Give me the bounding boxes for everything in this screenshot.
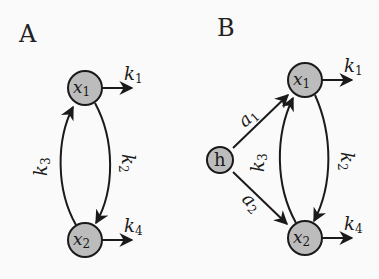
rate-a-k3: k3: [30, 157, 53, 176]
rate-b-k3: k3: [247, 153, 270, 172]
edge-b-x1-to-x2-k2: [314, 95, 328, 221]
rate-b-k1: k1: [344, 55, 363, 78]
reaction-network-figure: A x1 x2 k1 k4 k2 k3 B x1: [0, 0, 379, 279]
rate-a-k2: k2: [116, 154, 139, 173]
node-b-x2: x2: [288, 221, 322, 255]
rate-b-k2: k2: [335, 152, 358, 171]
node-a-x1: x1: [68, 71, 102, 105]
rate-a-k4: k4: [124, 215, 143, 238]
edge-a-x2-to-x1-k3: [61, 107, 76, 225]
rate-b-a1: a1: [234, 103, 263, 132]
rate-b-k4: k4: [344, 213, 363, 236]
rate-b-a2: a2: [237, 188, 266, 217]
node-b-h: h: [207, 147, 233, 173]
node-b-x1: x1: [288, 63, 322, 97]
panel-b-label: B: [217, 14, 235, 42]
panel-b: B x1 x2 h k1 k4 k2 k3 a1 a2: [207, 14, 363, 255]
svg-text:h: h: [214, 149, 226, 170]
rate-a-k1: k1: [124, 63, 143, 86]
edge-b-h-to-x2-a2: [233, 172, 287, 224]
edge-b-x2-to-x1-k3: [280, 98, 296, 223]
node-a-x2: x2: [68, 223, 102, 257]
edge-a-x1-to-x2-k2: [95, 103, 110, 223]
panel-a-label: A: [18, 20, 37, 48]
panel-a: A x1 x2 k1 k4 k2 k3: [18, 20, 143, 257]
